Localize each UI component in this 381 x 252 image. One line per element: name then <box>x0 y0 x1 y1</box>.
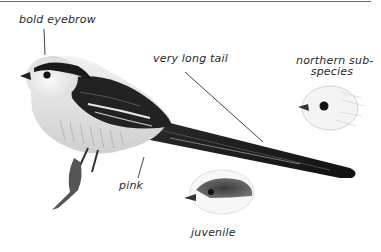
label-juvenile: juvenile <box>191 227 236 238</box>
eye <box>43 71 50 78</box>
juvenile-eye <box>208 189 214 195</box>
label-northern-subspecies-line2: species <box>296 66 368 77</box>
illustration-frame: bold eyebrow very long tail northern sub… <box>0 0 381 252</box>
northern-eye <box>320 102 329 111</box>
juvenile-head <box>184 170 254 214</box>
label-bold-eyebrow: bold eyebrow <box>19 14 96 25</box>
bird-illustration <box>0 0 381 252</box>
pink-leader-line <box>138 157 144 178</box>
eyebrow-leader-line <box>44 29 45 55</box>
twig <box>52 158 82 210</box>
label-very-long-tail: very long tail <box>153 53 228 64</box>
adult-bird <box>20 56 356 210</box>
beak <box>20 72 31 80</box>
northern-subspecies-head <box>298 86 364 130</box>
label-pink: pink <box>119 180 143 191</box>
